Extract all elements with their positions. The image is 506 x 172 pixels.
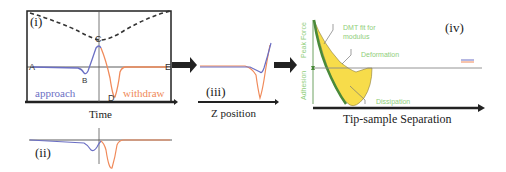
- point-e-label: E: [165, 62, 171, 72]
- dissipation-label: Dissipation: [376, 98, 410, 106]
- arrow-right-icon: [290, 57, 297, 73]
- panel-iii-label: (iii): [206, 84, 226, 99]
- arrow-iii-to-iv: [274, 57, 297, 73]
- dmt-fit-label: DMT fit for: [343, 24, 376, 31]
- panel-ii-label: (ii): [35, 145, 51, 160]
- dmt-leader-line: [324, 24, 333, 44]
- point-b-label: B: [82, 76, 87, 85]
- peak-force-label: Peak Force: [300, 22, 307, 58]
- z-position-label: Z position: [211, 107, 256, 119]
- separation-axis-arrowhead-icon: [478, 104, 485, 112]
- approach-curve: [32, 46, 101, 74]
- diagram-canvas: (i) A B C D E approach withdraw Time (ii…: [0, 0, 506, 172]
- separation-axis-label: Tip-sample Separation: [343, 112, 452, 126]
- arrow-i-to-iii: [172, 57, 197, 73]
- time-axis-label: Time: [89, 108, 112, 120]
- deformation-label: Deformation: [361, 51, 399, 58]
- arrow-shaft: [172, 62, 190, 68]
- z-axis-arrowhead-icon: [275, 99, 279, 105]
- deformation-leader-line: [342, 49, 351, 64]
- point-a-label: A: [29, 62, 35, 72]
- point-d-label: D: [108, 93, 115, 103]
- withdraw-label: withdraw: [123, 87, 165, 99]
- arrow-right-icon: [190, 57, 197, 73]
- panel-iv: Peak Force Adhesion DMT fit for modulus …: [300, 20, 485, 126]
- panel-ii: (ii): [29, 128, 172, 168]
- panel-iii-approach-curve: [200, 43, 271, 73]
- panel-ii-withdraw-curve: [101, 140, 170, 168]
- panel-iv-label: (iv): [445, 20, 464, 35]
- arrow-shaft: [274, 62, 290, 68]
- adhesion-label: Adhesion: [300, 71, 307, 100]
- panel-i: (i) A B C D E approach withdraw Time: [25, 11, 178, 120]
- point-c-label: C: [95, 34, 102, 44]
- panel-i-label: (i): [30, 14, 42, 29]
- time-axis-arrowhead-icon: [174, 99, 178, 105]
- approach-label: approach: [35, 87, 76, 99]
- panel-iii: (iii) Z position: [198, 43, 279, 119]
- modulus-label: modulus: [343, 33, 370, 40]
